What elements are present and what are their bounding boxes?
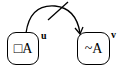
cross-mark <box>48 2 68 20</box>
node-u-label: u <box>41 30 47 41</box>
node-u-content: □A <box>14 41 33 57</box>
node-v-label: v <box>111 29 116 40</box>
node-v-content: ~A <box>85 41 103 57</box>
node-v: ~A <box>77 32 110 65</box>
node-u: □A <box>7 32 39 65</box>
